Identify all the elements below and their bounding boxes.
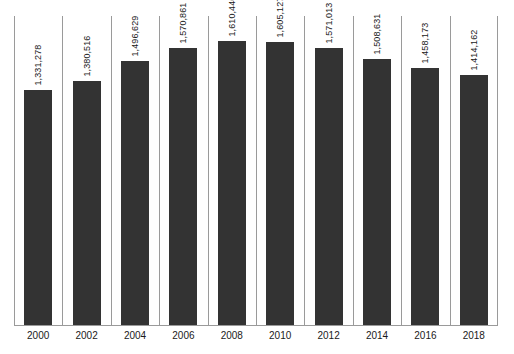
x-tick-label: 2002 bbox=[75, 330, 97, 341]
bar bbox=[315, 48, 343, 325]
bar-group: 1,414,162 bbox=[450, 16, 498, 325]
x-axis-tick-labels: 2000200220042006200820102012201420162018 bbox=[14, 330, 498, 350]
bar-group: 1,458,173 bbox=[401, 16, 449, 325]
bar-group: 1,570,861 bbox=[159, 16, 207, 325]
bar-value-label: 1,380,516 bbox=[81, 33, 92, 77]
bar bbox=[411, 68, 439, 325]
x-tick-label: 2018 bbox=[463, 330, 485, 341]
bar bbox=[24, 90, 52, 325]
bar-group: 1,496,629 bbox=[111, 16, 159, 325]
bar bbox=[218, 41, 246, 325]
bar-group: 1,610,446 bbox=[208, 16, 256, 325]
bar-value-label: 1,605,127 bbox=[275, 0, 286, 38]
bar-value-label: 1,508,631 bbox=[371, 11, 382, 55]
bar-value-label: 1,570,861 bbox=[178, 0, 189, 44]
bar-value-label: 1,414,162 bbox=[468, 27, 479, 71]
x-tick-label: 2010 bbox=[269, 330, 291, 341]
x-tick-label: 2008 bbox=[221, 330, 243, 341]
x-axis-line bbox=[14, 325, 498, 326]
bar-group: 1,605,127 bbox=[256, 16, 304, 325]
bar bbox=[460, 75, 488, 325]
plot-area: 1,331,2781,380,5161,496,6291,570,8611,61… bbox=[14, 16, 498, 325]
x-tick-label: 2014 bbox=[366, 330, 388, 341]
bar bbox=[363, 59, 391, 325]
x-tick-label: 2012 bbox=[317, 330, 339, 341]
bar bbox=[169, 48, 197, 325]
bar-value-label: 1,331,278 bbox=[33, 42, 44, 86]
bar-group: 1,571,013 bbox=[304, 16, 352, 325]
x-tick-label: 2004 bbox=[124, 330, 146, 341]
bar-value-label: 1,571,013 bbox=[323, 0, 334, 44]
bar-value-label: 1,610,446 bbox=[226, 0, 237, 37]
bar-group: 1,331,278 bbox=[14, 16, 62, 325]
bar bbox=[266, 42, 294, 325]
bar-value-label: 1,458,173 bbox=[420, 20, 431, 64]
bar-value-label: 1,496,629 bbox=[129, 13, 140, 57]
bar bbox=[73, 81, 101, 325]
bar bbox=[121, 61, 149, 325]
x-tick-label: 2016 bbox=[414, 330, 436, 341]
bar-chart: 1,331,2781,380,5161,496,6291,570,8611,61… bbox=[0, 0, 514, 354]
x-tick-label: 2000 bbox=[27, 330, 49, 341]
x-tick-label: 2006 bbox=[172, 330, 194, 341]
bar-group: 1,380,516 bbox=[62, 16, 110, 325]
bar-group: 1,508,631 bbox=[353, 16, 401, 325]
